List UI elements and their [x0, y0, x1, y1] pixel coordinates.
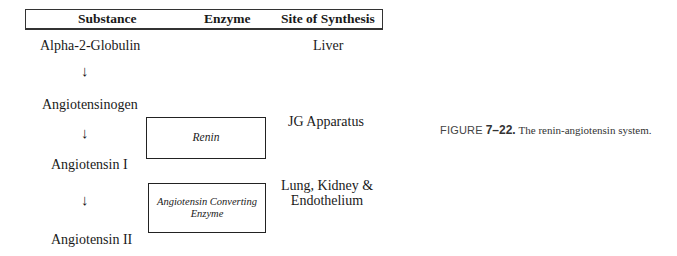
substance-angiotensinogen: Angiotensinogen	[42, 97, 138, 113]
arrow-down-icon: ↓	[81, 126, 89, 141]
enzyme-renin-label: Renin	[193, 131, 220, 144]
site-lung-kidney-endothelium: Lung, Kidney & Endothelium	[281, 178, 373, 209]
figure-number: 7–22.	[486, 123, 516, 137]
enzyme-box-ace: Angiotensin Converting Enzyme	[148, 183, 266, 233]
site-ace-line2: Endothelium	[281, 193, 373, 208]
arrow-down-icon: ↓	[81, 64, 89, 79]
substance-alpha-2-globulin: Alpha-2-Globulin	[40, 38, 140, 54]
site-jg-apparatus: JG Apparatus	[288, 114, 364, 129]
arrow-down-icon: ↓	[81, 193, 89, 208]
enzyme-ace-label-line2: Enzyme	[191, 208, 224, 220]
figure-label: FIGURE	[440, 124, 483, 136]
site-ace-line1: Lung, Kidney &	[281, 178, 373, 193]
enzyme-box-renin: Renin	[146, 117, 266, 159]
table-header: Substance Enzyme Site of Synthesis	[25, 9, 383, 30]
site-liver: Liver	[313, 38, 343, 53]
substance-angiotensin-i: Angiotensin I	[51, 157, 128, 173]
substance-angiotensin-ii: Angiotensin II	[51, 232, 132, 248]
header-substance: Substance	[78, 11, 137, 27]
enzyme-ace-label-line1: Angiotensin Converting	[157, 196, 257, 208]
figure-caption-text: The renin-angiotensin system.	[519, 124, 652, 136]
header-enzyme: Enzyme	[204, 11, 251, 27]
figure-caption: FIGURE 7–22. The renin-angiotensin syste…	[440, 123, 651, 137]
header-site-of-synthesis: Site of Synthesis	[281, 11, 375, 27]
